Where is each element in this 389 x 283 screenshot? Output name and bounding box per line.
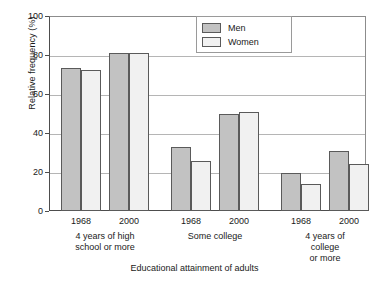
- x-year-label: 2000: [119, 216, 139, 226]
- legend-label-men: Men: [228, 23, 246, 33]
- legend-swatch-women-icon: [202, 37, 221, 47]
- legend-swatch-men-icon: [202, 23, 221, 33]
- legend-item-women: Women: [202, 35, 286, 49]
- bar-men: [171, 147, 191, 211]
- y-tick-label: 20: [0, 167, 43, 177]
- x-group-label: 4 years of high school or more: [75, 231, 135, 253]
- legend-item-men: Men: [202, 21, 286, 35]
- x-year-label: 2000: [229, 216, 249, 226]
- bar-women: [81, 70, 101, 211]
- legend: Men Women: [196, 16, 292, 53]
- bar-women: [129, 53, 149, 211]
- y-tick-label: 80: [0, 50, 43, 60]
- bar-men: [219, 114, 239, 212]
- x-year-label: 1968: [291, 216, 311, 226]
- bar-men: [329, 151, 349, 211]
- legend-label-women: Women: [228, 37, 259, 47]
- bar-women: [301, 184, 321, 211]
- bar-men: [281, 173, 301, 211]
- y-tick-label: 0: [0, 206, 43, 216]
- y-tick-mark: [45, 211, 49, 212]
- bar-men: [61, 68, 81, 211]
- bar-women: [191, 161, 211, 211]
- x-group-label: Some college: [188, 231, 243, 242]
- y-tick-label: 60: [0, 89, 43, 99]
- y-tick-label: 100: [0, 11, 43, 21]
- y-tick-label: 40: [0, 128, 43, 138]
- bar-men: [109, 53, 129, 211]
- bar-chart: Relative frequency (%) 020406080100 Men …: [0, 0, 389, 283]
- bar-women: [239, 112, 259, 211]
- bar-women: [349, 164, 369, 211]
- x-axis-title: Educational attainment of adults: [0, 263, 389, 273]
- x-year-label: 1968: [71, 216, 91, 226]
- y-axis-title: Relative frequency (%): [27, 0, 37, 143]
- x-group-label: 4 years of college or more: [293, 231, 357, 264]
- x-year-label: 1968: [181, 216, 201, 226]
- x-year-label: 2000: [339, 216, 359, 226]
